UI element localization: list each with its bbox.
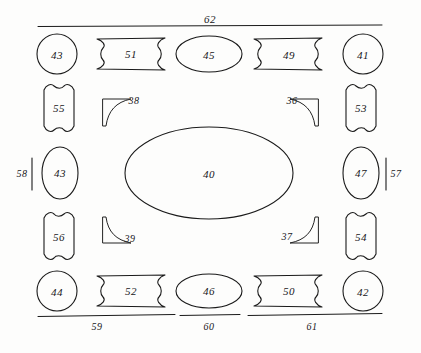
dimension-label-57: 57 — [391, 168, 402, 179]
bracket-label-37: 37 — [282, 231, 293, 242]
dimension-label-60: 60 — [204, 321, 215, 332]
part-label-42-bottom-right: 42 — [357, 286, 369, 298]
part-label-56: 56 — [53, 231, 65, 243]
bracket-37 — [290, 217, 318, 243]
bracket-label-39: 39 — [125, 233, 136, 244]
dimension-label-58: 58 — [17, 168, 28, 179]
part-label-53: 53 — [355, 102, 367, 114]
part-label-44-bottom-left: 44 — [51, 286, 63, 298]
part-label-43-top-left: 43 — [51, 49, 63, 61]
dimension-line-59 — [38, 315, 175, 317]
dimension-line-62 — [38, 25, 382, 27]
part-label-43-middle-left: 43 — [54, 167, 66, 179]
dimension-label-59: 59 — [92, 321, 103, 332]
part-label-55: 55 — [53, 102, 65, 114]
dimension-line-61 — [248, 314, 382, 316]
bracket-label-38: 38 — [129, 95, 140, 106]
patent-figure: 62 43 51 45 49 41 55 53 38 36 43 47 58 5… — [0, 0, 421, 353]
part-label-50: 50 — [283, 285, 295, 297]
part-label-51: 51 — [125, 48, 137, 60]
part-label-47-middle-right: 47 — [355, 167, 367, 179]
dimension-label-62: 62 — [204, 13, 216, 25]
bracket-label-36: 36 — [287, 95, 298, 106]
dimension-label-61: 61 — [307, 321, 318, 332]
part-label-54: 54 — [355, 231, 367, 243]
part-label-46: 46 — [203, 285, 215, 297]
bracket-38 — [103, 99, 131, 126]
part-label-45: 45 — [203, 49, 215, 61]
part-label-52: 52 — [125, 285, 137, 297]
part-label-49: 49 — [283, 49, 295, 61]
dimension-line-60 — [180, 315, 240, 316]
part-label-40-center: 40 — [203, 168, 215, 180]
part-label-41-top-right: 41 — [357, 49, 369, 61]
